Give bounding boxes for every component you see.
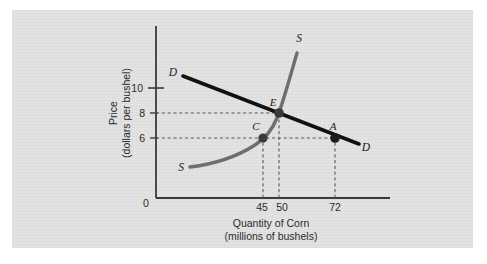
supply-curve-label-bottom: S (178, 161, 184, 173)
x-tick-label-72: 72 (329, 201, 341, 213)
y-tick-label-6: 6 (139, 132, 145, 144)
x-tick-label-50: 50 (276, 201, 288, 213)
point-marker-c (258, 133, 267, 142)
marked-points (258, 108, 339, 143)
x-axis-title-line1: Quantity of Corn (233, 217, 310, 229)
y-axis-title-line1: Price (107, 101, 119, 125)
supply-demand-chart: C E A D D S S 10 8 6 45 50 72 0 Quantity… (0, 0, 487, 264)
y-tick-label-8: 8 (139, 107, 145, 119)
axes (148, 26, 390, 198)
point-label-c: C (252, 120, 260, 132)
figure-root: C E A D D S S 10 8 6 45 50 72 0 Quantity… (0, 0, 487, 264)
y-axis-title-line2: (dollars per bushel) (120, 68, 132, 158)
demand-curve-label-right: D (361, 141, 371, 153)
origin-label: 0 (143, 197, 149, 209)
demand-curve (183, 76, 359, 144)
point-marker-a (330, 133, 340, 143)
point-label-a: A (329, 120, 337, 132)
point-label-e: E (269, 96, 277, 108)
x-tick-label-45: 45 (256, 201, 268, 213)
x-axis-title-line2: (millions of bushels) (225, 230, 318, 242)
supply-curve-label-top: S (296, 32, 302, 44)
y-tick-label-10: 10 (131, 82, 143, 94)
demand-curve-group (183, 76, 359, 144)
demand-curve-label-left: D (168, 66, 178, 78)
point-marker-e (274, 108, 284, 118)
